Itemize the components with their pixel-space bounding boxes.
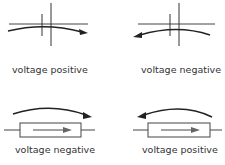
label-voltage-positive: voltage positive xyxy=(142,144,218,155)
current-arrow-left-icon xyxy=(144,109,212,117)
label-voltage-positive: voltage positive xyxy=(12,64,88,75)
label-voltage-negative: voltage negative xyxy=(15,144,95,155)
panel-capacitor-negative: voltage negative xyxy=(112,0,225,82)
panel-capacitor-positive: voltage positive xyxy=(0,0,112,82)
panel-resistor-negative: voltage negative xyxy=(0,82,112,165)
current-arrow-right-icon xyxy=(8,27,82,32)
panel-resistor-positive: voltage positive xyxy=(112,82,225,165)
label-voltage-negative: voltage negative xyxy=(141,64,221,75)
current-arrow-right-icon xyxy=(13,108,86,115)
current-arrow-left-icon xyxy=(140,30,210,36)
